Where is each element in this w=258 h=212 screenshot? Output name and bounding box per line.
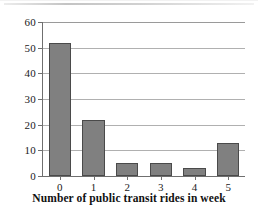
x-tick-mark	[228, 176, 229, 180]
y-tick-mark	[38, 22, 43, 23]
x-tick-mark	[195, 176, 196, 180]
gridline	[43, 22, 245, 23]
bar	[150, 163, 172, 176]
x-axis-title: Number of public transit rides in week	[0, 192, 258, 204]
y-tick-label: 20	[25, 119, 36, 131]
y-tick-mark	[38, 176, 43, 177]
y-tick-label: 0	[30, 170, 36, 182]
x-tick-mark	[127, 176, 128, 180]
y-tick-mark	[38, 48, 43, 49]
scan-artifact-line-top	[0, 0, 258, 1]
x-tick-mark	[161, 176, 162, 180]
x-tick-mark	[94, 176, 95, 180]
gridline	[43, 150, 245, 151]
y-tick-mark	[38, 125, 43, 126]
y-tick-label: 50	[25, 42, 36, 54]
x-axis-line	[42, 176, 245, 177]
bar	[49, 43, 71, 176]
gridline	[43, 99, 245, 100]
y-tick-label: 10	[25, 144, 36, 156]
y-tick-label: 40	[25, 67, 36, 79]
bar	[82, 120, 104, 176]
gridline	[43, 48, 245, 49]
y-tick-mark	[38, 73, 43, 74]
bar	[217, 143, 239, 176]
y-tick-label: 60	[25, 16, 36, 28]
y-tick-mark	[38, 150, 43, 151]
x-tick-mark	[60, 176, 61, 180]
y-tick-mark	[38, 99, 43, 100]
y-tick-label: 30	[25, 93, 36, 105]
plot-area: 0102030405060 012345	[43, 22, 245, 176]
gridline	[43, 73, 245, 74]
scan-artifact-strip	[4, 3, 254, 5]
bar	[183, 168, 205, 176]
bar	[116, 163, 138, 176]
gridline	[43, 125, 245, 126]
bar-chart-figure: 0102030405060 012345 Relative frequency …	[0, 0, 258, 212]
